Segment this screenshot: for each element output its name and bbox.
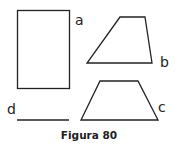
label-a: a: [75, 13, 84, 27]
shape-b-trapezoid: [87, 17, 152, 63]
label-c: c: [158, 100, 166, 114]
figure-canvas: [0, 0, 178, 144]
label-d: d: [7, 102, 16, 116]
label-b: b: [160, 55, 169, 69]
shape-c-trapezoid: [81, 81, 158, 120]
figure-caption: Figura 80: [0, 129, 178, 141]
shape-a-rectangle: [18, 11, 70, 89]
